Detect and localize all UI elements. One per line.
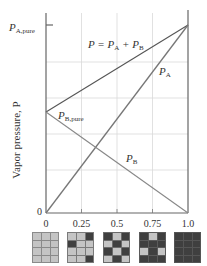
pb-label: PB [125, 152, 138, 166]
pa-label: PA [158, 65, 171, 79]
svg-text:1.0: 1.0 [182, 218, 195, 229]
composition-grid-075 [139, 232, 166, 263]
pb-pure-label: PB,pure [57, 109, 84, 123]
composition-grids [32, 232, 201, 263]
svg-text:0.75: 0.75 [144, 218, 162, 229]
composition-grid-025 [67, 232, 94, 263]
y-tick-zero: 0 [37, 206, 42, 217]
svg-text:0.25: 0.25 [73, 218, 91, 229]
total-pressure-label: P = PA + PB [87, 38, 144, 52]
pa-pure-label: PA,pure [8, 21, 35, 35]
vapor-pressure-chart: PA,pure PB,pure P = PA + PB PA PB Vapor … [0, 0, 207, 266]
svg-text:0.5: 0.5 [111, 218, 124, 229]
svg-text:0: 0 [44, 218, 49, 229]
composition-grid-0 [32, 232, 59, 263]
x-tick-labels: 0 0.25 0.5 0.75 1.0 [44, 218, 195, 229]
grid-lines [46, 13, 188, 213]
composition-grid-1 [174, 232, 201, 263]
y-axis-label: Vapor pressure, P [10, 101, 22, 178]
composition-grid-05 [103, 232, 130, 263]
